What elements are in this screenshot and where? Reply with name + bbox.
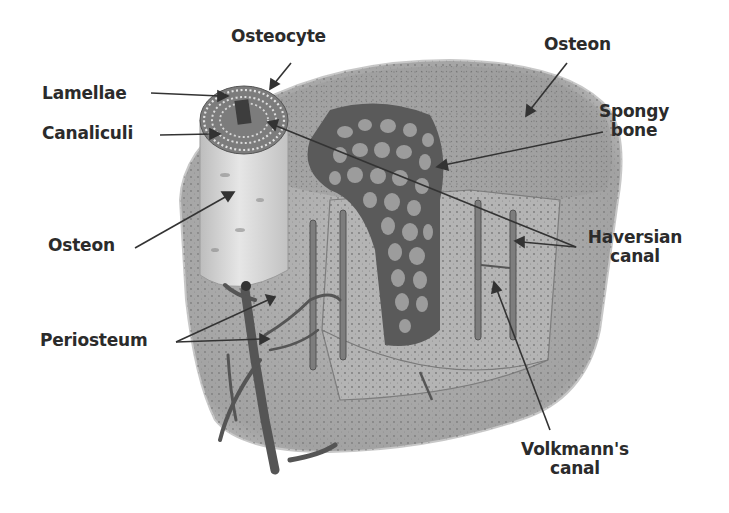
label-canaliculi: Canaliculi xyxy=(42,124,133,143)
osteon-column xyxy=(200,86,288,286)
label-periosteum: Periosteum xyxy=(40,331,147,350)
label-volkmann-line2: canal xyxy=(550,458,600,478)
label-haversian-canal: Haversian canal xyxy=(580,228,690,266)
label-osteocyte: Osteocyte xyxy=(231,27,326,46)
label-haversian-line1: Haversian xyxy=(588,227,682,247)
label-spongy-bone-line2: bone xyxy=(611,120,658,140)
label-spongy-bone: Spongy bone xyxy=(594,102,674,140)
label-haversian-line2: canal xyxy=(610,246,660,266)
label-osteon-right: Osteon xyxy=(544,35,611,54)
label-lamellae: Lamellae xyxy=(42,84,127,103)
label-volkmann-line1: Volkmann's xyxy=(521,439,629,459)
cutaway-section xyxy=(322,190,560,400)
label-spongy-bone-line1: Spongy xyxy=(599,101,669,121)
bone-diagram: Osteocyte Lamellae Canaliculi Osteon Ost… xyxy=(0,0,729,513)
label-volkmanns-canal: Volkmann's canal xyxy=(510,440,640,478)
label-osteon-left: Osteon xyxy=(48,236,115,255)
